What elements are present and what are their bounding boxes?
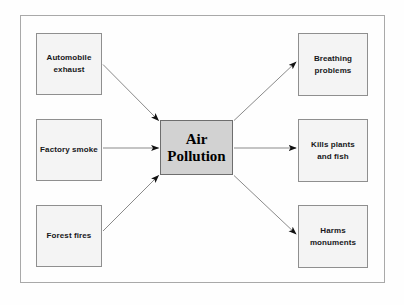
- node-forest-fires: Forest fires: [36, 205, 102, 267]
- node-kills-plants-and-fish: Kills plants and fish: [298, 119, 368, 182]
- node-automobile-exhaust: Automobile exhaust: [36, 33, 102, 95]
- node-label: Breathing problems: [314, 53, 352, 76]
- node-label: Forest fires: [47, 230, 92, 242]
- node-label: Automobile exhaust: [47, 52, 92, 75]
- node-harms-monuments: Harms monuments: [298, 205, 368, 268]
- node-label: Factory smoke: [40, 144, 98, 156]
- node-air-pollution: Air Pollution: [160, 120, 233, 175]
- air-pollution-diagram: Automobile exhaust Factory smoke Forest …: [0, 0, 404, 305]
- node-breathing-problems: Breathing problems: [298, 33, 368, 96]
- node-factory-smoke: Factory smoke: [36, 119, 102, 181]
- node-label: Kills plants and fish: [311, 139, 355, 162]
- node-label: Harms monuments: [310, 225, 356, 248]
- node-label: Air Pollution: [167, 131, 225, 165]
